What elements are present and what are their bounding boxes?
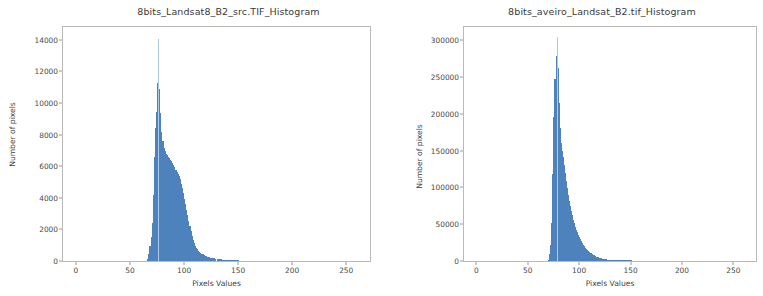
x-axis-tick-label: 100	[177, 266, 191, 275]
histogram-bar	[631, 260, 632, 261]
x-axis-label-right: Pixels Values	[463, 279, 757, 288]
chart-title-left: 8bits_Landsat8_B2_src.TIF_Histogram	[0, 6, 419, 17]
y-axis-tick-label: 8000	[39, 130, 62, 139]
x-axis-tick-mark	[733, 262, 734, 265]
histogram-peak-spike	[557, 37, 558, 261]
x-axis-tick-label: 250	[726, 266, 740, 275]
x-axis-tick-mark	[346, 262, 347, 265]
plot-area-left	[62, 26, 371, 262]
y-axis-tick-label: 2000	[39, 225, 62, 234]
x-axis-tick-mark	[476, 262, 477, 265]
x-axis-tick-mark	[130, 262, 131, 265]
x-axis-tick-label: 150	[231, 266, 245, 275]
x-axis-tick-label: 0	[74, 266, 79, 275]
histogram-peak-spike	[158, 39, 159, 261]
x-axis-tick-label: 200	[675, 266, 689, 275]
x-axis-tick-label: 150	[624, 266, 638, 275]
x-axis-tick-label: 250	[339, 266, 353, 275]
x-axis-label-left: Pixels Values	[62, 279, 371, 288]
x-axis-tick-mark	[681, 262, 682, 265]
x-axis-tick-mark	[184, 262, 185, 265]
histogram-panel-left: 8bits_Landsat8_B2_src.TIF_Histogram Numb…	[0, 0, 381, 296]
x-axis-tick-label: 200	[285, 266, 299, 275]
x-axis-tick-label: 50	[125, 266, 134, 275]
histogram-bars-right	[464, 27, 756, 261]
x-axis-tick-mark	[579, 262, 580, 265]
histogram-figure: 8bits_Landsat8_B2_src.TIF_Histogram Numb…	[0, 0, 763, 296]
y-axis-tick-label: 0	[53, 257, 62, 266]
histogram-bars-left	[63, 27, 370, 261]
x-axis-tick-mark	[527, 262, 528, 265]
x-axis-tick-mark	[630, 262, 631, 265]
x-axis-tick-mark	[292, 262, 293, 265]
histogram-bar	[238, 260, 239, 261]
y-axis-label-right: Number of pixels	[415, 112, 424, 202]
x-axis-tick-mark	[75, 262, 76, 265]
y-axis-tick-label: 12000	[34, 67, 62, 76]
y-axis-tick-label: 6000	[39, 162, 62, 171]
x-axis-tick-label: 100	[572, 266, 586, 275]
x-axis-tick-label: 50	[523, 266, 532, 275]
y-axis-tick-label: 10000	[34, 98, 62, 107]
plot-area-right	[463, 26, 757, 262]
y-axis-tick-label: 14000	[34, 35, 62, 44]
y-axis-label-left: Number of pixels	[8, 90, 17, 180]
chart-title-right: 8bits_aveiro_Landsat_B2.tif_Histogram	[381, 6, 763, 17]
x-axis-tick-mark	[238, 262, 239, 265]
y-axis-tick-label: 4000	[39, 193, 62, 202]
x-axis-tick-label: 0	[474, 266, 479, 275]
